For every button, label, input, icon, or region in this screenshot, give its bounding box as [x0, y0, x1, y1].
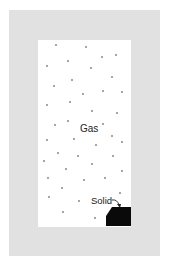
gas-particle [116, 112, 118, 114]
gas-particle [115, 54, 117, 56]
gas-particle [43, 160, 45, 162]
gas-particle [47, 177, 49, 179]
gas-particle [53, 85, 55, 87]
gas-particle [102, 90, 104, 92]
gas-particle [85, 46, 87, 48]
gas-particle [121, 141, 123, 143]
gas-particle [95, 144, 97, 146]
gas-particle [101, 56, 103, 58]
gas-particle [94, 217, 96, 219]
gas-particle [121, 170, 123, 172]
gas-particle [121, 91, 123, 93]
gas-particle [91, 163, 93, 165]
gas-particle [83, 179, 85, 181]
gas-particle [69, 101, 71, 103]
solid-label: Solid [91, 196, 112, 206]
solid-block [106, 207, 131, 226]
gas-particle [112, 155, 114, 157]
gas-label: Gas [80, 124, 98, 134]
gas-particle [46, 65, 48, 67]
gas-particle [90, 67, 92, 69]
gas-particle [67, 120, 69, 122]
gas-particle [62, 211, 64, 213]
gas-particle [78, 200, 80, 202]
gas-particle [46, 139, 48, 141]
gas-particle [91, 110, 93, 112]
gas-particle [111, 135, 113, 137]
gas-particle [71, 79, 73, 81]
gas-particle [111, 76, 113, 78]
gas-particle [48, 196, 50, 198]
gas-particle [46, 104, 48, 106]
gas-particle [61, 187, 63, 189]
gas-particle [102, 123, 104, 125]
gas-particle [65, 168, 67, 170]
gas-particle [82, 93, 84, 95]
gas-particle [54, 124, 56, 126]
gas-particle [77, 155, 79, 157]
gas-particle [57, 152, 59, 154]
gas-particle [104, 177, 106, 179]
gas-particle [55, 44, 57, 46]
gas-particle [67, 60, 69, 62]
gas-particle [119, 192, 121, 194]
gas-particle [73, 138, 75, 140]
